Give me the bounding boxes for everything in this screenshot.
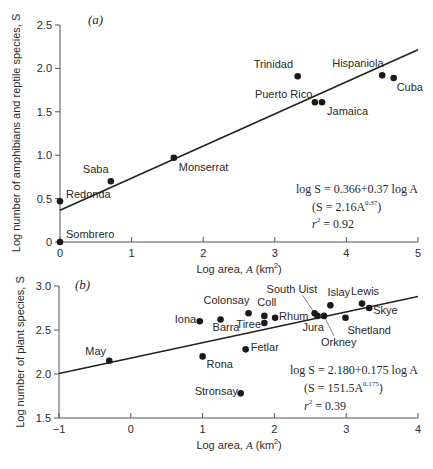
x-tick-label: 0 [57,247,63,259]
point-label: Jura [302,321,324,333]
data-point [106,358,113,365]
data-point [327,302,334,309]
r-squared-b: r2 = 0.39 [304,398,346,413]
y-tick-label: 3.0 [36,280,51,292]
point-label: Fetlar [251,341,279,353]
data-point [272,314,279,321]
x-tick-label: 4 [415,423,421,435]
point-label: Jamaica [327,105,369,117]
point-label: Rhum [279,310,308,322]
y-ticks-b: 1.52.02.53.0 [36,280,59,424]
data-point [57,198,64,205]
equation-block-b: log S = 2.180+0.175 log A (S = 151.5A0.1… [290,363,418,413]
y-tick-label: 0.5 [37,193,52,205]
x-ticks-b: −101234 [53,413,421,435]
x-tick-label: 4 [343,247,349,259]
point-label: Lewis [351,285,380,297]
chart-panel-b: (b) 1.52.02.53.0 −101234 Log number of p… [14,276,421,451]
data-point [366,305,373,312]
x-tick-label: 1 [200,423,206,435]
chart-panel-a: (a) 00.51.01.52.02.5 012345 Log number o… [10,12,424,275]
point-label: Skye [373,304,397,316]
y-tick-label: 0 [46,236,52,248]
data-point [319,99,326,106]
point-label: Hispaniola [332,57,384,69]
point-label: Rona [207,358,234,370]
leader-line [324,316,334,336]
point-label: Trinidad [254,58,293,70]
point-label: Stronsay [195,385,239,397]
data-point [199,353,206,360]
x-tick-label: 2 [200,247,206,259]
point-labels-a: SombreroRedondaSabaMonserratPuerto RicoJ… [66,57,424,240]
point-label: May [85,345,106,357]
data-point [108,178,115,185]
x-tick-label: 2 [271,423,277,435]
data-point [261,320,268,327]
power-law-a: (S = 2.16A0.37) [312,199,381,214]
x-tick-label: 5 [415,247,421,259]
x-tick-label: 3 [272,247,278,259]
data-point [261,313,268,320]
point-label: Iona [175,313,197,325]
equation-b: log S = 2.180+0.175 log A [290,363,418,377]
y-axis-label-b: Log number of plant species, S [14,276,26,428]
x-tick-label: 3 [343,423,349,435]
point-label: Colonsay [204,294,250,306]
x-ticks-a: 012345 [57,237,421,259]
y-tick-label: 1.5 [36,412,51,424]
point-label: South Uist [267,283,318,295]
equation-a: log S = 0.366+0.37 log A [296,182,418,196]
point-label: Cuba [397,81,424,93]
data-point [245,310,252,317]
data-point [314,313,321,320]
data-point [57,239,64,246]
y-axis-label-a: Log number of amphibians and reptile spe… [10,14,22,252]
x-tick-label: 1 [129,247,135,259]
data-point [242,346,249,353]
x-axis-label-a: Log area, A (km2) [196,262,281,275]
equation-block-a: log S = 0.366+0.37 log A (S = 2.16A0.37)… [296,182,418,231]
data-point [294,73,301,80]
x-tick-label: 0 [128,423,134,435]
data-point [237,390,244,397]
point-label: Puerto Rico [255,88,312,100]
data-point [312,99,319,106]
y-tick-label: 1.5 [37,106,52,118]
point-label: Coll [257,296,276,308]
power-law-b: (S = 151.5A0.175) [304,380,383,395]
r-squared-a: r2 = 0.92 [312,216,354,231]
data-point [321,313,328,320]
y-tick-label: 2.5 [36,324,51,336]
point-label: Saba [83,163,110,175]
data-point [342,314,349,321]
data-point [359,300,366,307]
figure: (a) 00.51.01.52.02.5 012345 Log number o… [0,0,433,469]
point-label: Tiree [236,318,261,330]
point-label: Monserrat [179,161,229,173]
data-point [379,72,386,79]
point-label: Orkney [321,336,357,348]
y-tick-label: 1.0 [37,149,52,161]
point-label: Sombrero [66,228,114,240]
panel-label-b: (b) [75,277,90,292]
y-tick-label: 2.0 [36,368,51,380]
point-label: Islay [327,286,350,298]
x-axis-label-b: Log area, A (km2) [196,438,281,451]
y-tick-label: 2.0 [37,62,52,74]
point-label: Shetland [347,324,390,336]
panel-label-a: (a) [88,12,103,27]
data-point [171,155,178,162]
y-ticks-a: 00.51.01.52.02.5 [37,19,60,248]
point-label: Redonda [66,188,112,200]
data-point [196,318,203,325]
x-tick-label: −1 [53,423,66,435]
y-tick-label: 2.5 [37,19,52,31]
